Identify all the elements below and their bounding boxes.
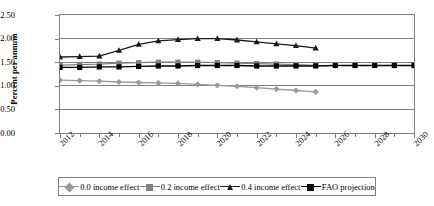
legend-label: 0.2 income effect: [161, 182, 220, 192]
x-minor-tick-mark: [276, 134, 277, 137]
x-minor-tick-mark: [394, 134, 395, 137]
x-minor-tick-mark: [355, 134, 356, 137]
plot-svg: [60, 15, 414, 133]
line-chart: Percent per annum 0.000.501.001.502.002.…: [0, 0, 434, 206]
legend-label: 0.4 income effect: [241, 182, 300, 192]
triangle-marker-icon: [220, 182, 240, 191]
x-minor-tick-mark: [119, 134, 120, 137]
legend-item[interactable]: 0.2 income effect: [140, 182, 220, 192]
y-tick-label: 1.50: [0, 58, 15, 67]
legend-item[interactable]: FAO projection: [301, 182, 375, 192]
chart-legend: 0.0 income effect0.2 income effect0.4 in…: [58, 177, 376, 196]
y-tick-label: 2.00: [0, 34, 15, 43]
square-marker-icon: [140, 182, 160, 191]
legend-label: 0.0 income effect: [80, 182, 139, 192]
square-marker-icon: [301, 182, 321, 191]
y-tick-label: 1.00: [0, 81, 15, 90]
legend-item[interactable]: 0.4 income effect: [220, 182, 300, 192]
plot-area: [59, 14, 415, 134]
x-minor-tick-mark: [237, 134, 238, 137]
y-tick-label: 0.50: [0, 105, 15, 114]
x-minor-tick-mark: [316, 134, 317, 137]
y-tick-label: 0.00: [0, 129, 15, 138]
x-minor-tick-mark: [158, 134, 159, 137]
x-minor-tick-mark: [198, 134, 199, 137]
legend-item[interactable]: 0.0 income effect: [59, 182, 139, 192]
diamond-marker-icon: [59, 182, 79, 191]
x-minor-tick-mark: [80, 134, 81, 137]
y-tick-label: 2.50: [0, 11, 15, 20]
legend-label: FAO projection: [322, 182, 375, 192]
